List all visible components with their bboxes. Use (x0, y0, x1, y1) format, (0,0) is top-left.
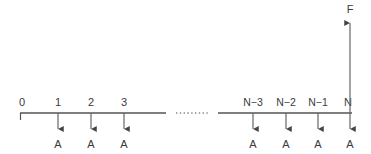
node-n-3-label: N−3 (243, 96, 263, 108)
node-n-1-label: N−1 (308, 96, 328, 108)
beam-left-segment (20, 113, 166, 120)
node-1-label: 1 (55, 96, 61, 108)
load-label-node-3: A (120, 138, 128, 150)
beam-load-diagram: 0 1 A 2 A 3 A N−3 A N−2 A (0, 0, 371, 154)
load-label-node-n-3: A (249, 138, 257, 150)
node-1: 1 A (54, 96, 62, 150)
node-2-label: 2 (88, 96, 94, 108)
node-3: 3 A (120, 96, 128, 150)
node-3-label: 3 (121, 96, 127, 108)
load-label-node-n-2: A (282, 138, 290, 150)
node-n-1: N−1 A (308, 96, 328, 150)
load-label-node-1: A (54, 138, 62, 150)
force-label-f: F (347, 3, 354, 15)
node-n-3: N−3 A (243, 96, 263, 150)
node-n: N F A (344, 3, 354, 150)
load-label-node-n: A (346, 138, 354, 150)
load-label-node-n-1: A (314, 138, 322, 150)
load-label-node-2: A (87, 138, 95, 150)
diagram-canvas: 0 1 A 2 A 3 A N−3 A N−2 A (0, 0, 371, 154)
node-n-2-label: N−2 (276, 96, 296, 108)
node-n-2: N−2 A (276, 96, 296, 150)
node-2: 2 A (87, 96, 95, 150)
node-0: 0 (19, 96, 25, 108)
node-0-label: 0 (19, 96, 25, 108)
node-n-label: N (344, 96, 352, 108)
